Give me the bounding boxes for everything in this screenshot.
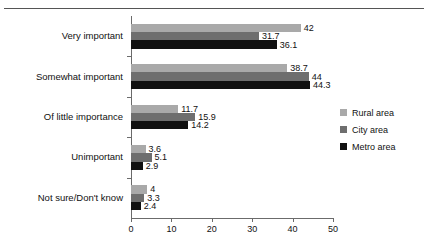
- top-divider-rule: [4, 8, 424, 9]
- bar-value-label: 38.7: [290, 64, 308, 73]
- legend-label: Metro area: [352, 142, 396, 152]
- bar-metro-area[interactable]: [131, 81, 310, 89]
- category-axis-label: Very important: [62, 31, 123, 41]
- bar-value-label: 2.9: [146, 161, 159, 170]
- bar-value-label: 42: [304, 23, 314, 32]
- bar-row: 2.4: [131, 202, 333, 210]
- bar-city-area[interactable]: [131, 32, 259, 40]
- x-axis-tick-label: 40: [288, 224, 298, 234]
- bar-row: 4: [131, 185, 333, 193]
- bar-row: 38.7: [131, 64, 333, 72]
- bar-value-label: 36.1: [280, 40, 298, 49]
- legend-swatch-icon: [340, 126, 347, 133]
- category-axis-label: Unimportant: [71, 152, 123, 162]
- bar-value-label: 14.2: [191, 121, 209, 130]
- bar-row: 3.3: [131, 194, 333, 202]
- category-group: Of little importance11.715.914.2: [131, 105, 333, 130]
- legend-label: Rural area: [352, 108, 394, 118]
- x-axis-tick-label: 50: [328, 224, 338, 234]
- y-axis-tick: [127, 178, 131, 179]
- x-axis-tick: [131, 218, 132, 222]
- category-group: Very important4231.736.1: [131, 24, 333, 49]
- category-group: Unimportant3.65.12.9: [131, 145, 333, 170]
- bar-rural-area[interactable]: [131, 185, 147, 193]
- bar-row: 2.9: [131, 162, 333, 170]
- bar-row: 36.1: [131, 40, 333, 48]
- bar-value-label: 44.3: [313, 80, 331, 89]
- x-axis-tick: [252, 218, 253, 222]
- bar-value-label: 31.7: [262, 32, 280, 41]
- bar-metro-area[interactable]: [131, 202, 141, 210]
- x-axis-tick-label: 30: [247, 224, 257, 234]
- y-axis-tick: [127, 56, 131, 57]
- bar-row: 15.9: [131, 113, 333, 121]
- bar-rural-area[interactable]: [131, 105, 178, 113]
- bar-row: 44: [131, 72, 333, 80]
- bar-rural-area[interactable]: [131, 64, 287, 72]
- bar-row: 31.7: [131, 32, 333, 40]
- y-axis-tick: [127, 137, 131, 138]
- x-axis-tick: [333, 218, 334, 222]
- bar-row: 5.1: [131, 153, 333, 161]
- bar-row: 14.2: [131, 121, 333, 129]
- x-axis-tick-label: 20: [207, 224, 217, 234]
- bar-row: 44.3: [131, 81, 333, 89]
- bar-rural-area[interactable]: [131, 145, 146, 153]
- bar-metro-area[interactable]: [131, 121, 188, 129]
- plot-area: Very important4231.736.1Somewhat importa…: [131, 16, 333, 218]
- legend-item[interactable]: City area: [340, 121, 396, 138]
- category-axis-label: Of little importance: [44, 112, 123, 122]
- bar-chart-figure: 01020304050 Very important4231.736.1Some…: [0, 0, 428, 247]
- legend-swatch-icon: [340, 109, 347, 116]
- legend-item[interactable]: Metro area: [340, 138, 396, 155]
- category-axis-label: Somewhat important: [36, 72, 123, 82]
- bar-value-label: 2.4: [144, 202, 157, 211]
- x-axis-tick-label: 10: [166, 224, 176, 234]
- y-axis-tick: [127, 97, 131, 98]
- x-axis-line: 01020304050: [131, 218, 333, 219]
- bar-value-label: 11.7: [181, 104, 198, 113]
- bar-row: 42: [131, 24, 333, 32]
- bar-city-area[interactable]: [131, 194, 144, 202]
- legend-swatch-icon: [340, 143, 347, 150]
- category-axis-label: Not sure/Don't know: [38, 193, 123, 203]
- chart-legend: Rural areaCity areaMetro area: [340, 104, 396, 155]
- category-group: Not sure/Don't know43.32.4: [131, 185, 333, 210]
- legend-label: City area: [352, 125, 388, 135]
- x-axis-tick-label: 0: [128, 224, 133, 234]
- x-axis-tick: [212, 218, 213, 222]
- x-axis-tick: [171, 218, 172, 222]
- bar-city-area[interactable]: [131, 72, 309, 80]
- bar-metro-area[interactable]: [131, 40, 277, 48]
- bar-metro-area[interactable]: [131, 162, 143, 170]
- x-axis-tick: [293, 218, 294, 222]
- bar-city-area[interactable]: [131, 113, 195, 121]
- bar-row: 11.7: [131, 105, 333, 113]
- category-group: Somewhat important38.74444.3: [131, 64, 333, 89]
- legend-item[interactable]: Rural area: [340, 104, 396, 121]
